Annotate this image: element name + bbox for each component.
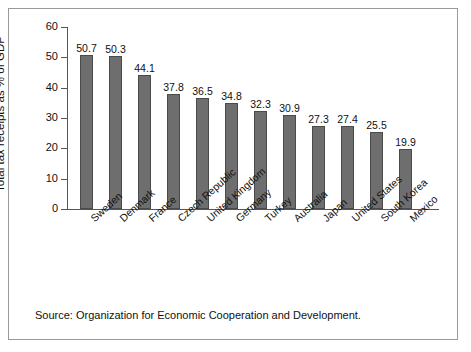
- y-tick-label: 0: [52, 201, 58, 216]
- y-tick-label: 10: [46, 171, 58, 186]
- y-tick-mark: [61, 209, 67, 210]
- bar-slot: 50.7: [72, 27, 101, 209]
- bar-value-label: 36.5: [192, 85, 212, 97]
- bar-slot: 50.3: [101, 27, 130, 209]
- y-tick-mark: [61, 179, 67, 180]
- bar[interactable]: 50.3: [109, 56, 122, 209]
- bar-slot: 37.8: [159, 27, 188, 209]
- bar-value-label: 27.4: [337, 113, 357, 125]
- bar-value-label: 34.8: [221, 90, 241, 102]
- figure-frame: 0102030405060 50.750.344.137.836.534.832…: [8, 8, 458, 340]
- bar-value-label: 44.1: [134, 62, 154, 74]
- bar-value-label: 32.3: [250, 98, 270, 110]
- bar-slot: 30.9: [275, 27, 304, 209]
- bar-value-label: 27.3: [308, 113, 328, 125]
- y-tick-label: 40: [46, 80, 58, 95]
- bar-value-label: 25.5: [366, 119, 386, 131]
- bar-value-label: 37.8: [163, 81, 183, 93]
- y-tick-label: 50: [46, 49, 58, 64]
- y-axis-title: Total tax receipts as % of GDP: [7, 0, 21, 23]
- bar-value-label: 50.3: [105, 43, 125, 55]
- bar-value-label: 50.7: [76, 42, 96, 54]
- y-tick-mark: [61, 27, 67, 28]
- x-axis-category-labels: SwedenDenmarkFranceCzech RepublicUnited …: [67, 213, 467, 293]
- y-tick-mark: [61, 88, 67, 89]
- y-tick-label: 60: [46, 19, 58, 34]
- bar-slot: 27.3: [304, 27, 333, 209]
- bar[interactable]: 37.8: [167, 94, 180, 209]
- y-tick-mark: [61, 118, 67, 119]
- bar[interactable]: 50.7: [80, 55, 93, 209]
- y-tick-label: 20: [46, 140, 58, 155]
- y-tick-mark: [61, 57, 67, 58]
- source-note: Source: Organization for Economic Cooper…: [35, 308, 361, 322]
- bar-slot: 44.1: [130, 27, 159, 209]
- y-axis-line: [67, 27, 68, 209]
- bar-value-label: 19.9: [395, 136, 415, 148]
- y-tick-label: 30: [46, 110, 58, 125]
- bar-value-label: 30.9: [279, 102, 299, 114]
- y-tick-mark: [61, 148, 67, 149]
- bar-slot: 27.4: [333, 27, 362, 209]
- y-axis-title-label: Total tax receipts as % of GDP: [0, 23, 7, 205]
